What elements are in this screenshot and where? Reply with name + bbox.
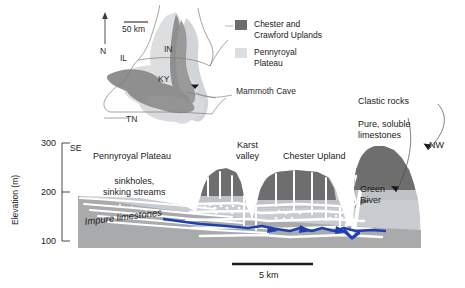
inset-map (102, 4, 232, 124)
annotation-sinkholes: sinkholes, sinking streams (103, 176, 166, 197)
legend-uplands-line2: Crawford Uplands (254, 30, 322, 40)
elevation-axis (62, 143, 70, 241)
annotation-karst-valley: Karst valley (236, 140, 259, 161)
axis-tick-100: 100 (30, 236, 56, 246)
axis-tick-300: 300 (30, 138, 56, 148)
legend-label-plateau: Pennyroyal Plateau (254, 47, 297, 69)
karst-valley-line2: valley (236, 151, 259, 161)
legend-swatch-uplands (235, 20, 247, 30)
legend-plateau-line2: Plateau (254, 58, 283, 68)
pure-limestones-line1: Pure, soluble (358, 119, 411, 129)
legend-uplands-line1: Chester and (254, 19, 300, 29)
pure-limestones-line2: limestones (358, 130, 401, 140)
direction-label-nw: NW (429, 140, 444, 151)
state-label-il: IL (120, 53, 127, 63)
legend-plateau-line1: Pennyroyal (254, 47, 297, 57)
state-label-tn: TN (126, 114, 137, 124)
section-scale-label: 5 km (259, 270, 279, 281)
state-label-in: IN (164, 44, 173, 54)
compass-label: N (100, 46, 106, 56)
annotation-pennyroyal-plateau: Pennyroyal Plateau (93, 151, 171, 162)
compass-north-arrow (102, 12, 108, 44)
karst-valley-line1: Karst (237, 140, 258, 150)
annotation-pure-soluble-limestones: Pure, soluble limestones (358, 119, 411, 140)
annotation-clastic-rocks: Clastic rocks (358, 96, 409, 107)
green-river-line1: Green (360, 184, 385, 194)
legend-swatch-plateau (235, 48, 247, 58)
sinkholes-line1: sinkholes, (114, 176, 154, 186)
annotation-green-river: Green River (360, 184, 385, 205)
direction-label-se: SE (70, 143, 81, 153)
legend-label-uplands: Chester and Crawford Uplands (254, 19, 322, 41)
karst-cross-section-figure: N 50 km IL IN KY TN Mammoth Cave Chester… (0, 0, 465, 288)
annotation-chester-upland: Chester Upland (283, 151, 346, 162)
state-label-ky: KY (158, 74, 169, 84)
axis-tick-200: 200 (30, 187, 56, 197)
green-river-line2: River (360, 195, 381, 205)
sinkholes-line2: sinking streams (103, 187, 166, 197)
map-scale-label: 50 km (122, 24, 145, 34)
mammoth-cave-label: Mammoth Cave (236, 86, 296, 96)
elevation-axis-title: Elevation (m) (10, 175, 20, 225)
